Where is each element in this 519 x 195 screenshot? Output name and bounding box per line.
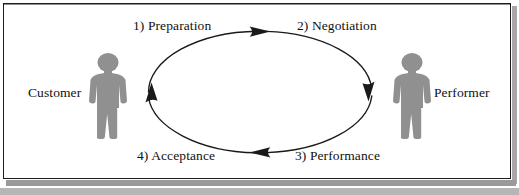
arrowhead-performance-icon <box>250 147 271 157</box>
step-label-negotiation: 2) Negotiation <box>297 18 377 34</box>
step-label-preparation: 1) Preparation <box>133 18 211 34</box>
cycle-loop-path <box>148 31 371 153</box>
diagram-root: 1) Preparation 2) Negotiation 3) Perform… <box>0 0 519 195</box>
arrowhead-negotiation-icon <box>363 82 375 102</box>
arrowhead-acceptance-icon <box>146 83 158 103</box>
performer-figure-icon <box>393 53 431 139</box>
actor-label-performer: Performer <box>434 85 490 101</box>
customer-figure-icon <box>89 53 127 139</box>
step-label-acceptance: 4) Acceptance <box>137 148 215 164</box>
arrowhead-preparation-icon <box>250 27 271 37</box>
actor-label-customer: Customer <box>28 85 81 101</box>
step-label-performance: 3) Performance <box>295 148 380 164</box>
